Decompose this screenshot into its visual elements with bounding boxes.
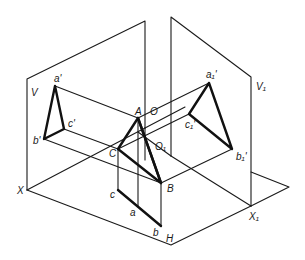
label-A: A bbox=[134, 106, 142, 117]
plane-v1-outline bbox=[171, 17, 251, 206]
label-H: H bbox=[166, 233, 174, 244]
plane-h1-fragment bbox=[251, 172, 289, 206]
label-c: c bbox=[110, 189, 115, 200]
plane-h-outline bbox=[27, 190, 251, 245]
plane-v bbox=[27, 21, 145, 190]
label-B: B bbox=[167, 183, 174, 194]
label-V1: V₁ bbox=[256, 81, 266, 92]
diagram-svg: V V₁ H X X₁ O O₁ A B C a' b' c' a b c a₁… bbox=[0, 0, 305, 260]
label-c1-prime: c₁' bbox=[185, 119, 196, 130]
plane-v-outline bbox=[27, 21, 145, 190]
label-a: a bbox=[130, 207, 136, 218]
label-c-prime: c' bbox=[68, 118, 76, 129]
plane-h bbox=[27, 190, 251, 245]
label-C: C bbox=[109, 148, 117, 159]
label-b: b bbox=[153, 227, 159, 238]
projection-diagram: V V₁ H X X₁ O O₁ A B C a' b' c' a b c a₁… bbox=[0, 0, 305, 260]
label-b1-prime: b₁' bbox=[236, 151, 248, 162]
projector-c-prime-C bbox=[64, 129, 118, 149]
plane-v1 bbox=[171, 17, 289, 206]
label-a-prime: a' bbox=[54, 73, 63, 84]
triangle-v-projection bbox=[44, 86, 64, 139]
label-O1: O₁ bbox=[155, 141, 166, 152]
projector-B-b1-prime bbox=[161, 149, 232, 183]
projector-a-prime-A bbox=[55, 86, 138, 118]
segment-cb-h bbox=[118, 190, 161, 226]
label-X1: X₁ bbox=[248, 211, 259, 222]
projector-b-prime-B bbox=[44, 139, 161, 183]
axis-x1 bbox=[171, 156, 251, 206]
projectors bbox=[44, 83, 232, 226]
triangle-v1-projection bbox=[189, 83, 232, 149]
label-a1-prime: a₁' bbox=[206, 69, 218, 80]
label-V: V bbox=[31, 87, 39, 98]
label-O: O bbox=[150, 106, 158, 117]
label-b-prime: b' bbox=[33, 135, 42, 146]
label-X: X bbox=[16, 185, 24, 196]
